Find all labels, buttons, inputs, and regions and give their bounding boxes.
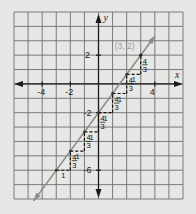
run-label: 1 <box>132 75 136 84</box>
step-point <box>111 92 114 95</box>
rise-denominator: 3 <box>129 84 133 93</box>
step-point <box>97 111 100 114</box>
step-point <box>69 150 72 153</box>
run-label: 1 <box>89 133 93 142</box>
y-axis-label: y <box>103 12 109 23</box>
y-axis-down-arrow-icon <box>96 189 102 198</box>
run-label: 1 <box>75 152 79 161</box>
x-tick-label: 4 <box>150 87 155 97</box>
data-line <box>34 36 155 201</box>
x-tick-label: -4 <box>37 87 45 97</box>
step-point <box>83 130 86 133</box>
run-label: 1 <box>61 171 65 180</box>
y-tick-label: -2 <box>83 108 91 118</box>
run-label: 1 <box>118 95 122 104</box>
point-label: (3, 2) <box>115 41 135 51</box>
step-point <box>55 169 58 172</box>
coordinate-plane: 143143143143143143(3, 2)-4-242-2-6xy <box>0 0 196 214</box>
rise-denominator: 3 <box>115 103 119 112</box>
rise-denominator: 3 <box>72 161 76 170</box>
line-series <box>34 36 155 201</box>
rise-denominator: 3 <box>86 141 90 150</box>
rise-denominator: 3 <box>101 122 105 131</box>
x-axis-label: x <box>174 69 180 80</box>
y-axis-up-arrow-icon <box>96 14 102 23</box>
x-axis-left-arrow-icon <box>14 81 23 87</box>
rise-denominator: 3 <box>143 65 147 74</box>
y-tick-label: 2 <box>85 50 90 60</box>
x-tick-label: -2 <box>65 87 73 97</box>
step-point <box>125 73 128 76</box>
labels: 143143143143143143(3, 2)-4-242-2-6xy <box>37 12 180 180</box>
x-axis-right-arrow-icon <box>174 81 183 87</box>
y-tick-label: -6 <box>83 165 91 175</box>
run-label: 1 <box>104 114 108 123</box>
